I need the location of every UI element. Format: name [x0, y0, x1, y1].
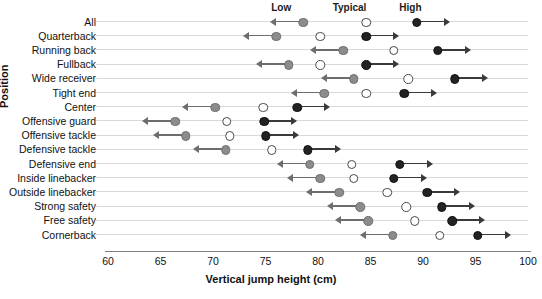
y-tick-label: Center [0, 100, 96, 114]
arrow-head-left-icon [310, 46, 316, 54]
data-point-low [221, 145, 231, 155]
arrow-head-right-icon [427, 160, 433, 168]
data-point-high [473, 231, 483, 241]
arrow-head-left-icon [277, 160, 283, 168]
arrow-head-left-icon [270, 18, 276, 26]
x-tick-label-90: 90 [417, 255, 429, 267]
x-axis-title: Vertical jump height (cm) [0, 273, 542, 285]
data-point-high [389, 174, 399, 184]
arrow-head-right-icon [505, 231, 511, 239]
arrow-head-left-icon [291, 89, 297, 97]
data-point-high [303, 145, 313, 155]
x-tick-label-100: 100 [519, 255, 537, 267]
arrow-head-left-icon [256, 60, 262, 68]
chart-row: Inside linebacker [108, 171, 528, 185]
data-point-low [271, 32, 281, 42]
data-point-high [422, 188, 432, 198]
row-gridline [96, 21, 528, 22]
x-tick-label-65: 65 [155, 255, 167, 267]
arrow-head-left-icon [287, 174, 293, 182]
column-header-typical: Typical [333, 2, 367, 13]
data-point-high [261, 131, 271, 141]
chart-row: Free safety [108, 213, 528, 227]
y-tick-label: All [0, 15, 96, 29]
chart-row: Center [108, 100, 528, 114]
data-point-low [349, 74, 359, 84]
chart-row: Defensive end [108, 157, 528, 171]
data-point-high [362, 60, 372, 70]
x-tick-label-75: 75 [260, 255, 272, 267]
data-point-typical [267, 145, 277, 155]
data-point-high [362, 32, 372, 42]
y-tick-label: Outside linebacker [0, 185, 96, 199]
data-point-low [388, 231, 398, 241]
y-tick-label: Free safety [0, 213, 96, 227]
x-tick-label-85: 85 [365, 255, 377, 267]
data-point-high [450, 74, 460, 84]
data-point-low [305, 160, 315, 170]
data-point-high [412, 18, 422, 28]
arrow-head-right-icon [393, 32, 399, 40]
x-tick-label-70: 70 [207, 255, 219, 267]
chart-row: Strong safety [108, 199, 528, 213]
plot-area: AllQuarterbackRunning backFullbackWide r… [108, 14, 528, 246]
data-point-typical [404, 74, 414, 84]
data-point-high [437, 202, 447, 212]
row-gridline [96, 64, 528, 65]
data-point-typical [225, 131, 235, 141]
data-point-typical [315, 60, 325, 70]
arrow-head-right-icon [444, 18, 450, 26]
chart-row: Fullback [108, 57, 528, 71]
data-point-typical [389, 46, 399, 56]
arrow-head-right-icon [469, 202, 475, 210]
chart-row: Cornerback [108, 228, 528, 242]
y-tick-label: Inside linebacker [0, 171, 96, 185]
data-point-typical [347, 160, 357, 170]
x-axis-line [105, 251, 531, 252]
data-point-typical [222, 117, 232, 127]
y-tick-label: Defensive end [0, 157, 96, 171]
arrow-head-left-icon [306, 188, 312, 196]
vertical-jump-height-chart: Low Typical High Position AllQuarterback… [0, 0, 542, 299]
data-point-low [338, 46, 348, 56]
x-tick-label-80: 80 [312, 255, 324, 267]
y-tick-label: Tight end [0, 86, 96, 100]
arrow-head-right-icon [431, 89, 437, 97]
data-point-typical [410, 216, 420, 226]
data-point-low [181, 131, 191, 141]
data-point-typical [349, 174, 359, 184]
arrow-head-right-icon [393, 60, 399, 68]
data-point-high [448, 216, 458, 226]
data-point-high [399, 89, 409, 99]
data-point-typical [362, 18, 372, 28]
column-header-high: High [399, 2, 421, 13]
y-tick-label: Offensive tackle [0, 128, 96, 142]
y-tick-label: Wide receiver [0, 71, 96, 85]
arrow-head-right-icon [482, 74, 488, 82]
data-point-high [433, 46, 443, 56]
chart-row: Wide receiver [108, 71, 528, 85]
data-point-typical [383, 188, 393, 198]
arrow-head-left-icon [327, 202, 333, 210]
arrow-head-left-icon [243, 32, 249, 40]
y-tick-label: Strong safety [0, 199, 96, 213]
data-point-low [334, 188, 344, 198]
data-point-low [299, 18, 309, 28]
chart-row: Tight end [108, 86, 528, 100]
chart-row: Defensive tackle [108, 142, 528, 156]
chart-row: Offensive guard [108, 114, 528, 128]
data-point-low [320, 89, 330, 99]
chart-row: Running back [108, 43, 528, 57]
arrow-head-left-icon [193, 145, 199, 153]
chart-row: Quarterback [108, 29, 528, 43]
data-point-high [260, 117, 270, 127]
arrow-head-right-icon [335, 145, 341, 153]
y-tick-label: Cornerback [0, 228, 96, 242]
arrow-head-right-icon [421, 174, 427, 182]
data-point-typical [401, 202, 411, 212]
arrow-head-right-icon [479, 216, 485, 224]
chart-row: Offensive tackle [108, 128, 528, 142]
data-point-low [315, 174, 325, 184]
arrow-head-right-icon [293, 131, 299, 139]
data-point-high [292, 103, 302, 113]
